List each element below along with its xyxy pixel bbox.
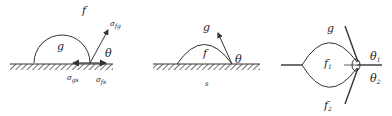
phase-f-label: f bbox=[82, 5, 86, 16]
tangent-upper bbox=[345, 26, 358, 62]
tangent-lower bbox=[345, 68, 358, 104]
angle-theta-label: θ bbox=[235, 54, 242, 65]
phase-g-label: g bbox=[203, 22, 210, 33]
solid-surface-hatch bbox=[10, 64, 113, 70]
diagram-canvas bbox=[0, 0, 392, 116]
solid-s-label: s bbox=[205, 81, 209, 88]
sigma-gs-label: σgs bbox=[67, 75, 79, 83]
sigma-fs-label: σfs bbox=[96, 77, 106, 85]
phase-f2-label: f2 bbox=[324, 100, 332, 112]
angle-theta1-label: θ1 bbox=[370, 51, 380, 63]
angle-theta-label: θ bbox=[105, 48, 112, 59]
sigma-fg-label: σfg bbox=[110, 21, 121, 29]
solid-surface-hatch bbox=[153, 64, 260, 70]
phase-f1-label: f1 bbox=[324, 58, 332, 70]
phase-f-label: f bbox=[203, 48, 207, 59]
phase-g-label: g bbox=[57, 41, 64, 52]
phase-g-label: g bbox=[327, 23, 334, 34]
tangent-arrow bbox=[218, 33, 232, 64]
angle-theta2-label: θ2 bbox=[370, 73, 380, 85]
